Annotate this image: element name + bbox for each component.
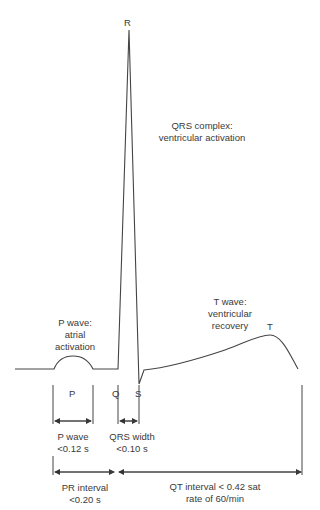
r-label: R	[124, 17, 131, 29]
qt-interval-duration: QT interval < 0.42 sat rate of 60/min	[160, 481, 270, 505]
t-wave-annotation: T wave: ventricular recovery	[200, 296, 260, 332]
p-wave-annotation: P wave: atrial activation	[48, 317, 102, 353]
q-label: Q	[112, 388, 119, 400]
t-label: T	[267, 321, 273, 333]
p-label: P	[69, 388, 75, 400]
pr-interval-duration: PR interval <0.20 s	[55, 482, 115, 506]
qrs-complex-annotation: QRS complex: ventricular activation	[147, 120, 257, 144]
s-label: S	[135, 388, 141, 400]
p-wave-duration: P wave <0.12 s	[45, 431, 101, 455]
qrs-width-duration: QRS width <0.10 s	[104, 431, 160, 455]
